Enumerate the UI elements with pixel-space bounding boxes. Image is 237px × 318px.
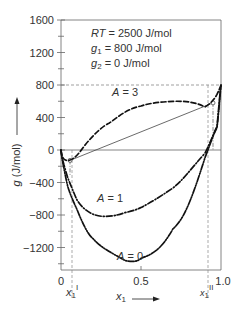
- y-axis-label-group: g (J/mol): [10, 97, 22, 186]
- x-axis-label: x1: [115, 290, 127, 304]
- tick-neg400: −400: [29, 177, 54, 189]
- rt-annotation: RT = 2500 J/mol: [91, 27, 172, 39]
- label-a1: A = 1: [96, 192, 123, 204]
- tick-neg1200: −1200: [23, 242, 54, 254]
- tick-400: 400: [36, 112, 54, 124]
- curves: [61, 85, 221, 261]
- tick-x05: 0.5: [133, 275, 148, 287]
- parameter-annotation: RT = 2500 J/mol g1 = 800 J/mol g2 = 0 J/…: [91, 27, 172, 71]
- x1-prime-label: x1I: [65, 283, 78, 300]
- x-arrow-head: [153, 297, 160, 302]
- label-a3: A = 3: [111, 86, 138, 98]
- tick-0: 0: [48, 144, 54, 156]
- tick-neg800: −800: [29, 209, 54, 221]
- x-tick-labels: 0 0.5 1.0: [58, 275, 231, 287]
- tick-x10: 1.0: [215, 275, 230, 287]
- tick-800: 800: [36, 79, 54, 91]
- y-arrow-head: [15, 97, 20, 104]
- tick-x0: 0: [58, 275, 64, 287]
- g1-annotation: g1 = 800 J/mol: [91, 42, 162, 56]
- curve-a0: [61, 85, 221, 261]
- y-axis-label: g (J/mol): [10, 144, 22, 187]
- curve-a1: [61, 85, 221, 216]
- x-axis-label-group: x1: [115, 290, 160, 304]
- tick-1600: 1600: [30, 14, 54, 26]
- tick-1200: 1200: [30, 47, 54, 59]
- common-tangent-line: [70, 103, 213, 160]
- g2-annotation: g2 = 0 J/mol: [91, 57, 150, 71]
- curve-a3: [61, 85, 221, 160]
- x1-double-prime-label: x1II: [199, 283, 213, 300]
- y-tick-labels: 1600 1200 800 400 0 −400 −800 −1200: [23, 14, 54, 254]
- free-energy-chart: 1600 1200 800 400 0 −400 −800 −1200 0 0.…: [0, 0, 237, 318]
- label-a0: A = 0: [116, 250, 143, 262]
